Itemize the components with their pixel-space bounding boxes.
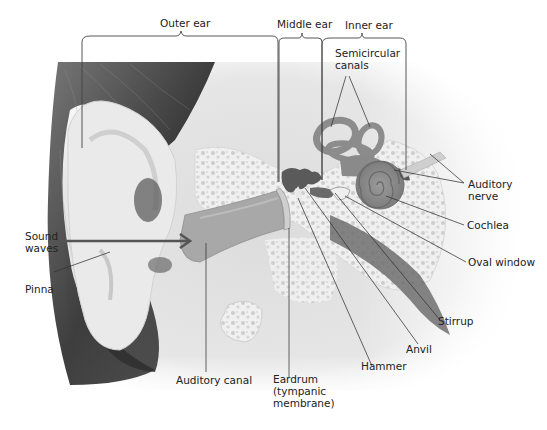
label-eardrum: Eardrum (tympanic membrane) [273,373,335,409]
label-oval-window: Oval window [468,256,535,268]
ear-illustration [0,0,547,430]
label-stirrup: Stirrup [438,315,473,327]
label-cochlea: Cochlea [467,219,509,231]
ear-diagram: Outer ear Middle ear Inner ear Semicircu… [0,0,547,430]
label-auditory-nerve: Auditory nerve [468,178,513,202]
label-outer-ear: Outer ear [160,17,210,29]
label-inner-ear: Inner ear [345,19,393,31]
label-middle-ear: Middle ear [277,18,332,30]
label-auditory-canal: Auditory canal [176,374,252,386]
label-sound-waves: Sound waves [25,230,58,254]
label-pinna: Pinna [25,283,54,295]
label-semicircular-canals: Semicircular canals [335,47,400,71]
label-hammer: Hammer [361,360,407,372]
label-anvil: Anvil [406,343,432,355]
